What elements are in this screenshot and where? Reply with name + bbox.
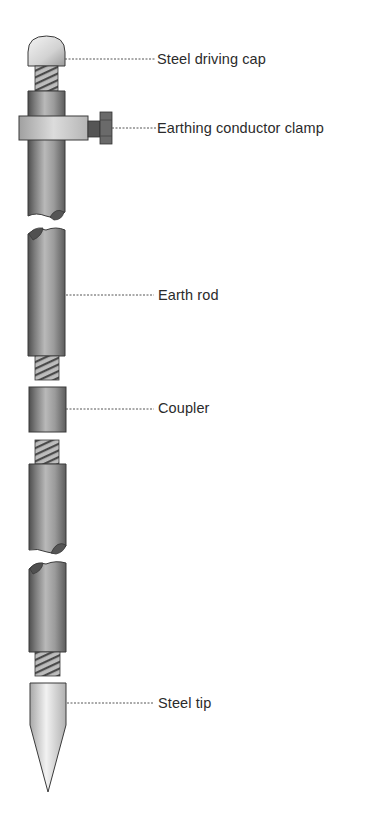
earth-rod-segment bbox=[28, 228, 65, 356]
rod-segment-3 bbox=[29, 464, 66, 554]
label-steel-driving-cap: Steel driving cap bbox=[157, 51, 266, 67]
label-earthing-conductor-clamp: Earthing conductor clamp bbox=[157, 120, 324, 136]
label-earth-rod: Earth rod bbox=[158, 287, 219, 303]
rod-thread-2 bbox=[35, 652, 60, 676]
steel-tip bbox=[30, 683, 66, 792]
coupler-thread bbox=[35, 440, 59, 464]
steel-driving-cap bbox=[28, 36, 65, 66]
rod-segment-4 bbox=[29, 562, 66, 652]
earthing-conductor-clamp bbox=[19, 112, 112, 144]
label-steel-tip: Steel tip bbox=[158, 695, 211, 711]
rod-segment-1 bbox=[28, 91, 65, 220]
cap-thread bbox=[35, 66, 58, 91]
leader-lines bbox=[65, 59, 156, 703]
label-coupler: Coupler bbox=[158, 400, 209, 416]
coupler bbox=[29, 387, 66, 432]
rod-thread-1 bbox=[35, 356, 59, 380]
